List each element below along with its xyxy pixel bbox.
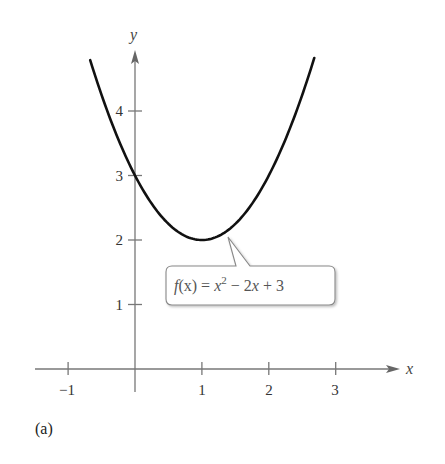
callout-minus: − 2: [227, 277, 252, 294]
x-tick-label: −1: [59, 382, 75, 398]
y-tick-label: 1: [116, 297, 124, 313]
callout-x: x: [213, 277, 221, 294]
y-axis-label: y: [128, 26, 138, 44]
x-tick-label: 2: [265, 382, 273, 398]
x-tick-label: 1: [198, 382, 206, 398]
callout-eq: =: [197, 277, 214, 294]
y-tick-label: 4: [116, 103, 124, 119]
function-label: f(x) = x2 − 2x + 3: [174, 274, 284, 295]
callout-bubble: [166, 237, 335, 305]
callout-tail: + 3: [259, 277, 284, 294]
callout-arg: (x): [178, 277, 197, 295]
function-callout: [166, 237, 335, 305]
function-graph: −1 1 2 3 1 2 3 4 x y f(x) = x2 − 2x + 3 …: [0, 0, 445, 464]
x-axis-label: x: [405, 360, 413, 377]
panel-label: (a): [35, 420, 53, 438]
y-tick-label: 3: [116, 168, 124, 184]
y-tick-label: 2: [116, 232, 124, 248]
parabola-curve: [90, 58, 314, 240]
callout-x2: x: [251, 277, 259, 294]
axes: [35, 50, 400, 392]
x-tick-label: 3: [331, 382, 339, 398]
